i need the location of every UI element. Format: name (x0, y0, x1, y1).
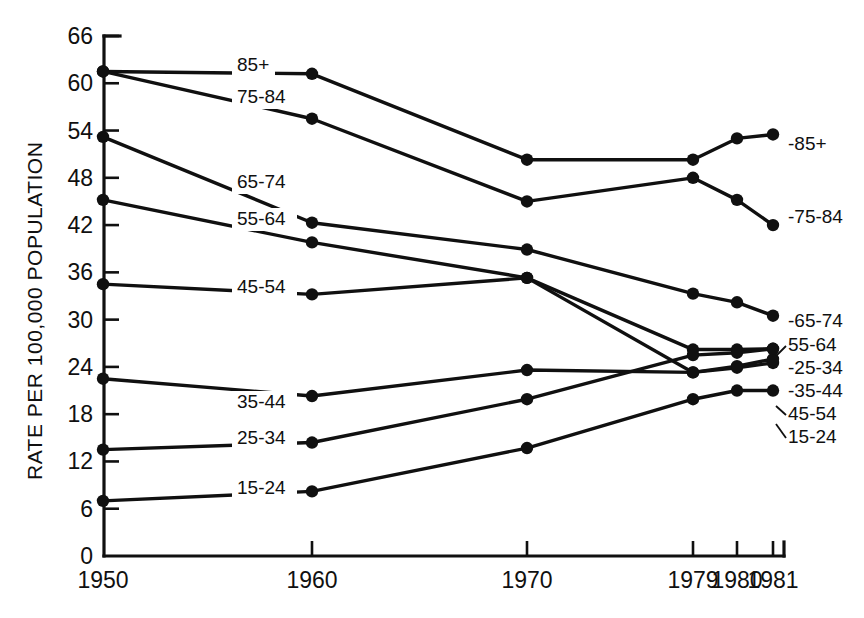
inline-label-text: 55-64 (237, 208, 286, 229)
inline-label-text: 15-24 (237, 477, 286, 498)
data-point-85+-1981 (767, 128, 779, 140)
y-tick-label-54: 54 (67, 118, 93, 144)
series-75-84 (97, 65, 779, 231)
x-axis-ticks: 195019601970197919801981 (77, 541, 798, 593)
inline-label-text: 35-44 (237, 391, 286, 412)
leader-15-24 (776, 424, 786, 438)
y-axis-title: RATE PER 100,000 POPULATION (23, 142, 46, 480)
data-point-35-44-1980 (731, 360, 743, 372)
right-label-85+: -85+ (788, 133, 827, 154)
y-tick-label-18: 18 (67, 401, 93, 427)
data-point-65-74-1979 (687, 287, 699, 299)
data-point-45-54-1970 (521, 272, 533, 284)
data-point-65-74-1981 (767, 309, 779, 321)
series-55-64 (97, 194, 779, 356)
inline-label-85+: 85+ (232, 54, 275, 77)
x-tick-label-1981: 1981 (747, 567, 798, 593)
data-point-35-44-1970 (521, 364, 533, 376)
data-point-65-74-1960 (306, 217, 318, 229)
data-point-35-44-1960 (306, 390, 318, 402)
series-25-34 (97, 343, 779, 456)
series-line-45-54 (103, 278, 773, 373)
data-point-75-84-1980 (731, 194, 743, 206)
right-label-75-84: -75-84 (788, 206, 843, 227)
series-85+ (97, 65, 779, 166)
inline-label-text: 75-84 (237, 86, 286, 107)
data-point-15-24-1979 (687, 393, 699, 405)
data-point-65-74-1950 (97, 131, 109, 143)
mortality-rate-line-chart: RATE PER 100,000 POPULATION 061218243036… (0, 0, 864, 618)
y-tick-label-36: 36 (67, 259, 93, 285)
inline-label-text: 65-74 (237, 171, 286, 192)
data-point-15-24-1950 (97, 495, 109, 507)
series-line-55-64 (103, 200, 773, 350)
data-point-25-34-1970 (521, 393, 533, 405)
y-tick-label-12: 12 (67, 448, 93, 474)
inline-label-text: 85+ (237, 54, 269, 75)
right-label-55-64: 55-64 (788, 334, 837, 355)
right-label-65-74: -65-74 (788, 310, 843, 331)
inline-label-text: 25-34 (237, 427, 286, 448)
y-tick-label-6: 6 (80, 496, 93, 522)
data-point-65-74-1980 (731, 296, 743, 308)
right-label-15-24: 15-24 (788, 426, 837, 447)
data-point-35-44-1950 (97, 373, 109, 385)
data-point-55-64-1950 (97, 194, 109, 206)
data-point-85+-1970 (521, 153, 533, 165)
data-point-45-54-1950 (97, 278, 109, 290)
data-point-15-24-1970 (521, 442, 533, 454)
y-tick-label-48: 48 (67, 165, 93, 191)
data-point-45-54-1960 (306, 288, 318, 300)
y-axis-ticks: 0612182430364248546066 (67, 23, 119, 569)
y-tick-label-30: 30 (67, 307, 93, 333)
right-label-35-44: -35-44 (788, 380, 843, 401)
data-point-85+-1979 (687, 153, 699, 165)
data-point-25-34-1960 (306, 436, 318, 448)
data-point-65-74-1970 (521, 243, 533, 255)
axis-lines (104, 36, 784, 556)
data-point-55-64-1960 (306, 236, 318, 248)
data-point-25-34-1950 (97, 443, 109, 455)
series-line-85+ (103, 71, 773, 159)
data-point-75-84-1950 (97, 65, 109, 77)
data-point-25-34-1979 (687, 349, 699, 361)
right-label-45-54: 45-54 (788, 403, 837, 424)
x-tick-label-1960: 1960 (286, 567, 337, 593)
x-tick-label-1950: 1950 (77, 567, 128, 593)
series-line-75-84 (103, 71, 773, 225)
series-line-35-44 (103, 359, 773, 396)
right-series-labels: -85+-75-84-65-7455-64-25-34-35-4445-5415… (776, 133, 843, 447)
y-tick-label-42: 42 (67, 212, 93, 238)
right-label-25-34: -25-34 (788, 357, 843, 378)
data-point-85+-1960 (306, 68, 318, 80)
inline-label-text: 45-54 (237, 276, 286, 297)
data-point-15-24-1960 (306, 485, 318, 497)
y-tick-label-60: 60 (67, 70, 93, 96)
data-point-25-34-1980 (731, 347, 743, 359)
data-point-15-24-1980 (731, 384, 743, 396)
data-point-35-44-1979 (687, 366, 699, 378)
x-tick-label-1970: 1970 (501, 567, 552, 593)
inline-series-labels: 85+75-8465-7455-6445-5435-4425-3415-24 (232, 54, 297, 500)
data-point-75-84-1981 (767, 219, 779, 231)
chart-figure: RATE PER 100,000 POPULATION 061218243036… (0, 0, 864, 618)
data-point-25-34-1981 (767, 343, 779, 355)
y-tick-label-24: 24 (67, 354, 93, 380)
data-point-75-84-1970 (521, 195, 533, 207)
leader-45-54 (776, 406, 786, 415)
y-tick-label-66: 66 (67, 23, 93, 49)
inline-label-25-34: 25-34 (232, 427, 297, 450)
data-point-85+-1980 (731, 132, 743, 144)
inline-label-45-54: 45-54 (232, 276, 297, 299)
data-point-75-84-1960 (306, 113, 318, 125)
data-point-15-24-1981 (767, 384, 779, 396)
inline-label-15-24: 15-24 (232, 477, 297, 500)
data-point-75-84-1979 (687, 172, 699, 184)
series-layer (97, 65, 779, 507)
inline-label-55-64: 55-64 (232, 208, 297, 231)
inline-label-65-74: 65-74 (232, 171, 297, 194)
inline-label-75-84: 75-84 (232, 86, 297, 109)
inline-label-35-44: 35-44 (232, 391, 297, 414)
series-line-25-34 (103, 349, 773, 450)
y-tick-label-0: 0 (80, 543, 93, 569)
